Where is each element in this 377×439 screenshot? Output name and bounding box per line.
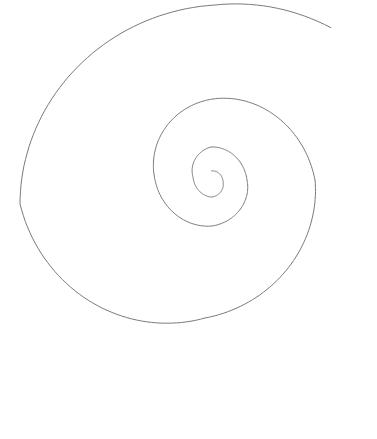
spiral-curve <box>20 4 331 323</box>
spiral-diagram <box>0 0 377 439</box>
